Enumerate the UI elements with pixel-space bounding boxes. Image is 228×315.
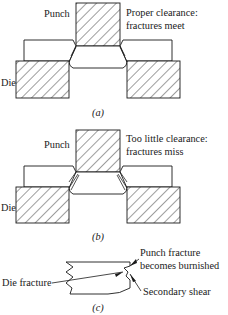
punch-label-a: Punch xyxy=(44,8,71,19)
caption-b-line1: Too little clearance: xyxy=(126,133,208,144)
panel-label-c: (c) xyxy=(92,302,104,314)
punch-block-b xyxy=(76,130,120,172)
die-fracture-label: Die fracture xyxy=(2,277,52,288)
sheet-right-b xyxy=(120,166,172,187)
panel-b: Punch Die Too little clearance: fracture… xyxy=(1,130,208,243)
secondary-shear-label: Secondary shear xyxy=(143,286,211,297)
slug-b xyxy=(69,172,127,194)
arrowhead-punch-fracture-c xyxy=(130,259,137,266)
sheared-edge-profile-c xyxy=(66,262,130,294)
panel-label-b: (b) xyxy=(92,231,105,243)
figure-root: Punch Die Proper clearance: fractures me… xyxy=(0,0,228,315)
die-block-right-a xyxy=(127,61,180,98)
sheet-left-a xyxy=(24,40,76,61)
arrowhead-secondary-shear-c xyxy=(130,274,136,282)
punch-block-a xyxy=(76,3,120,46)
slug-a xyxy=(69,46,127,68)
sheet-left-b xyxy=(24,166,76,187)
die-block-right-b xyxy=(127,187,180,223)
die-label-a: Die xyxy=(1,77,16,88)
caption-b-line2: fractures miss xyxy=(126,146,183,157)
die-label-b: Die xyxy=(1,202,16,213)
die-block-left-a xyxy=(16,61,69,98)
caption-a-line2: fractures meet xyxy=(126,20,185,31)
panel-label-a: (a) xyxy=(92,107,105,119)
sheet-right-a xyxy=(120,40,172,61)
punch-fracture-label-line1: Punch fracture xyxy=(140,247,201,258)
punch-fracture-label-line2: becomes burnished xyxy=(140,260,220,271)
die-block-left-b xyxy=(16,187,69,223)
punch-label-b: Punch xyxy=(44,139,71,150)
punching-clearance-figure: Punch Die Proper clearance: fractures me… xyxy=(0,0,228,315)
panel-a: Punch Die Proper clearance: fractures me… xyxy=(1,3,198,119)
panel-c: Punch fracture becomes burnished Seconda… xyxy=(2,247,220,314)
caption-a-line1: Proper clearance: xyxy=(126,7,198,18)
